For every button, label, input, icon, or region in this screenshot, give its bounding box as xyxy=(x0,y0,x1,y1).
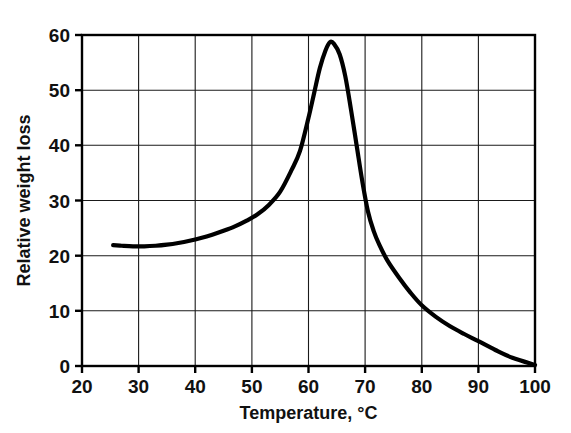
x-tick-label: 30 xyxy=(128,376,149,397)
y-tick-label: 10 xyxy=(49,301,70,322)
y-axis-title: Relative weight loss xyxy=(14,114,34,286)
x-tick-label: 90 xyxy=(468,376,489,397)
x-tick-label: 100 xyxy=(519,376,551,397)
x-tick-label: 20 xyxy=(71,376,92,397)
x-tick-labels: 20 30 40 50 60 70 80 90 100 xyxy=(71,376,550,397)
y-tick-labels: 0 10 20 30 40 50 60 xyxy=(49,25,70,377)
x-tick-label: 70 xyxy=(355,376,376,397)
y-tick-label: 30 xyxy=(49,191,70,212)
y-tick-label: 60 xyxy=(49,25,70,46)
chart-figure: 0 10 20 30 40 50 60 20 30 40 50 60 70 80… xyxy=(0,0,571,433)
y-tick-label: 20 xyxy=(49,246,70,267)
x-tick-label: 50 xyxy=(241,376,262,397)
x-tick-label: 40 xyxy=(185,376,206,397)
x-axis-title: Temperature, °C xyxy=(240,403,378,423)
x-tick-label: 60 xyxy=(298,376,319,397)
x-tick-label: 80 xyxy=(411,376,432,397)
y-tick-label: 40 xyxy=(49,135,70,156)
relative-weight-loss-chart: 0 10 20 30 40 50 60 20 30 40 50 60 70 80… xyxy=(0,0,571,433)
y-tick-label: 0 xyxy=(59,356,70,377)
y-tick-label: 50 xyxy=(49,80,70,101)
